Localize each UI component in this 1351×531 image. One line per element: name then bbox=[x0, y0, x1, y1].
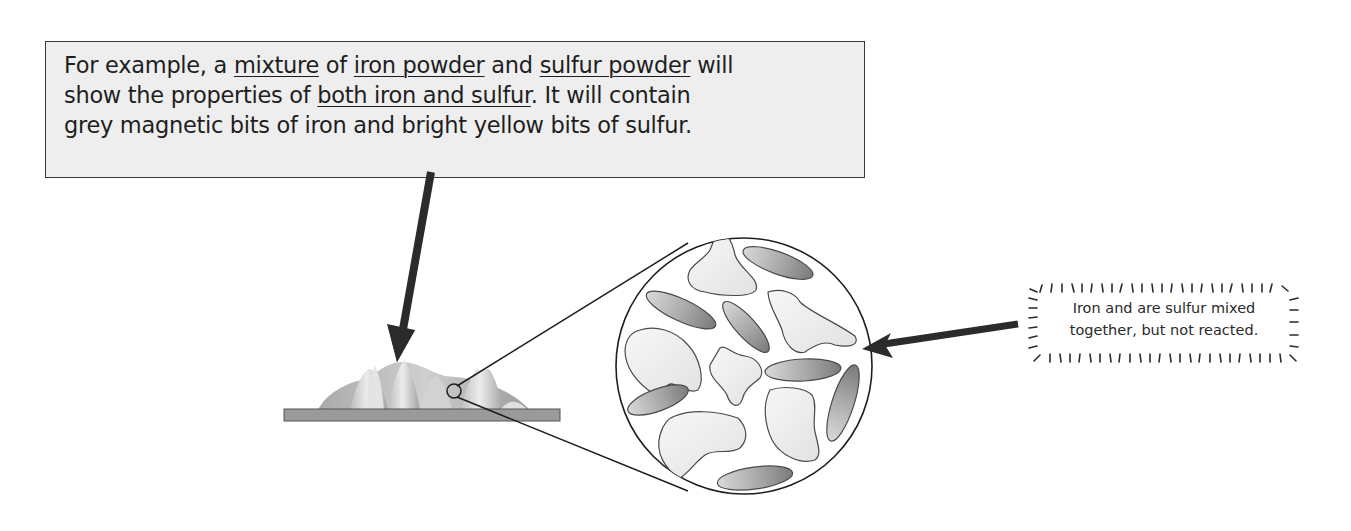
note-line-2: together, but not reacted. bbox=[1027, 319, 1301, 341]
arrow-left-icon bbox=[862, 324, 1018, 358]
plate bbox=[284, 409, 560, 421]
zoomed-view bbox=[616, 234, 872, 494]
note-line-1: Iron and are sulfur mixed bbox=[1027, 297, 1301, 319]
mixture-diagram bbox=[0, 0, 1351, 531]
arrow-down-icon bbox=[387, 172, 431, 362]
note-text: Iron and are sulfur mixed together, but … bbox=[1027, 297, 1301, 341]
powder-pile bbox=[318, 360, 530, 410]
annotation-note: Iron and are sulfur mixed together, but … bbox=[1027, 280, 1301, 360]
